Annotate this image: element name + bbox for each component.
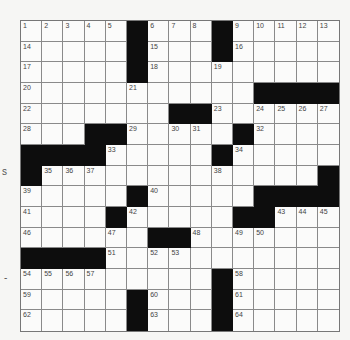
grid-cell[interactable]: 52 [148,248,169,269]
grid-cell[interactable] [212,248,233,269]
grid-cell[interactable] [63,290,84,311]
grid-cell[interactable] [191,310,212,331]
grid-cell[interactable] [42,290,63,311]
grid-cell[interactable] [85,42,106,63]
grid-cell[interactable] [169,186,190,207]
grid-cell[interactable]: 21 [127,83,148,104]
grid-cell[interactable] [254,166,275,187]
grid-cell[interactable] [191,186,212,207]
grid-cell[interactable] [106,166,127,187]
grid-cell[interactable] [85,207,106,228]
grid-cell[interactable]: 47 [106,228,127,249]
grid-cell[interactable]: 7 [169,21,190,42]
grid-cell[interactable]: 24 [254,104,275,125]
grid-cell[interactable]: 42 [127,207,148,228]
grid-cell[interactable] [42,83,63,104]
grid-cell[interactable] [254,145,275,166]
grid-cell[interactable]: 60 [148,290,169,311]
grid-cell[interactable] [169,62,190,83]
grid-cell[interactable]: 36 [63,166,84,187]
grid-cell[interactable]: 17 [21,62,42,83]
grid-cell[interactable] [85,104,106,125]
grid-cell[interactable] [275,62,296,83]
grid-cell[interactable] [106,62,127,83]
grid-cell[interactable] [275,145,296,166]
grid-cell[interactable] [42,62,63,83]
grid-cell[interactable] [297,145,318,166]
grid-cell[interactable]: 55 [42,269,63,290]
grid-cell[interactable]: 49 [233,228,254,249]
grid-cell[interactable] [233,248,254,269]
grid-cell[interactable] [63,42,84,63]
grid-cell[interactable] [233,186,254,207]
grid-cell[interactable] [297,42,318,63]
grid-cell[interactable] [85,310,106,331]
grid-cell[interactable]: 51 [106,248,127,269]
grid-cell[interactable] [127,269,148,290]
grid-cell[interactable] [254,310,275,331]
grid-cell[interactable] [106,42,127,63]
grid-cell[interactable] [318,145,339,166]
grid-cell[interactable] [191,248,212,269]
grid-cell[interactable] [297,290,318,311]
grid-cell[interactable] [63,104,84,125]
grid-cell[interactable] [42,124,63,145]
grid-cell[interactable]: 14 [21,42,42,63]
grid-cell[interactable] [85,290,106,311]
grid-cell[interactable] [254,248,275,269]
grid-cell[interactable] [233,83,254,104]
grid-cell[interactable]: 61 [233,290,254,311]
grid-cell[interactable] [191,269,212,290]
grid-cell[interactable]: 35 [42,166,63,187]
grid-cell[interactable]: 15 [148,42,169,63]
grid-cell[interactable]: 40 [148,186,169,207]
grid-cell[interactable] [275,310,296,331]
grid-cell[interactable]: 23 [212,104,233,125]
grid-cell[interactable] [148,207,169,228]
grid-cell[interactable] [127,166,148,187]
grid-cell[interactable] [169,269,190,290]
grid-cell[interactable] [318,228,339,249]
grid-cell[interactable] [63,228,84,249]
grid-cell[interactable]: 26 [297,104,318,125]
grid-cell[interactable] [169,290,190,311]
grid-cell[interactable] [42,207,63,228]
grid-cell[interactable]: 31 [191,124,212,145]
grid-cell[interactable]: 20 [21,83,42,104]
grid-cell[interactable]: 5 [106,21,127,42]
grid-cell[interactable] [106,269,127,290]
grid-cell[interactable] [42,104,63,125]
grid-cell[interactable] [212,186,233,207]
grid-cell[interactable]: 63 [148,310,169,331]
grid-cell[interactable] [297,124,318,145]
grid-cell[interactable] [297,310,318,331]
grid-cell[interactable] [212,124,233,145]
grid-cell[interactable] [297,228,318,249]
grid-cell[interactable]: 41 [21,207,42,228]
grid-cell[interactable]: 13 [318,21,339,42]
grid-cell[interactable] [148,124,169,145]
grid-cell[interactable]: 30 [169,124,190,145]
grid-cell[interactable]: 2 [42,21,63,42]
grid-cell[interactable] [191,290,212,311]
grid-cell[interactable] [42,186,63,207]
grid-cell[interactable] [169,166,190,187]
grid-cell[interactable] [148,269,169,290]
grid-cell[interactable] [297,269,318,290]
grid-cell[interactable]: 1 [21,21,42,42]
grid-cell[interactable]: 45 [318,207,339,228]
grid-cell[interactable]: 3 [63,21,84,42]
grid-cell[interactable]: 64 [233,310,254,331]
grid-cell[interactable] [191,62,212,83]
grid-cell[interactable] [212,83,233,104]
grid-cell[interactable]: 12 [297,21,318,42]
grid-cell[interactable] [127,248,148,269]
grid-cell[interactable] [148,166,169,187]
grid-cell[interactable]: 32 [254,124,275,145]
grid-cell[interactable] [85,186,106,207]
grid-cell[interactable] [275,248,296,269]
grid-cell[interactable]: 44 [297,207,318,228]
grid-cell[interactable] [127,228,148,249]
grid-cell[interactable] [297,62,318,83]
grid-cell[interactable]: 46 [21,228,42,249]
